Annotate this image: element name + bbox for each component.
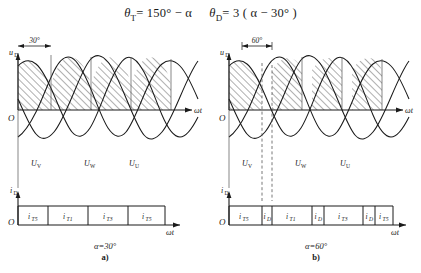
current-segment-label-b-5: i: [366, 212, 368, 221]
voltage-x-axis-arrow-a: [185, 108, 192, 113]
phase-sublabel-uv-b: V: [248, 163, 252, 169]
formula-theta-t-expression: = 150° − α: [136, 6, 192, 20]
current-segment-sublabel-a-1: T1: [67, 216, 73, 222]
voltage-y-axis-label-b: u: [220, 48, 224, 57]
current-segment-labels-b: i T5 i D i T1 i D i T3 i D i T5: [239, 212, 389, 222]
current-segment-labels-a: i T5 i T1 i T3 i T5: [28, 212, 152, 222]
phase-sublabel-uu-b: U: [346, 163, 350, 169]
current-segment-label-b-0: i: [239, 212, 241, 221]
voltage-y-axis-sublabel-a: D: [14, 52, 18, 58]
current-segment-label-a-0: i: [28, 212, 30, 221]
voltage-y-axis-sublabel-b: D: [225, 52, 229, 58]
angle-marker-b: 60°: [242, 36, 272, 50]
formula-theta-d: θD= 3 ( α − 30° ): [209, 6, 297, 23]
phase-sublabel-uw-a: W: [90, 163, 96, 169]
panel-a: 30° u D O ωt U V U W U U i D O ωt: [0, 33, 210, 273]
current-x-axis-arrow-a: [173, 223, 180, 228]
panel-b-alpha-caption: α=60°: [211, 241, 421, 251]
current-origin-label-b: O: [219, 217, 226, 227]
panel-b-label: b): [211, 252, 421, 262]
current-segment-label-a-2: i: [103, 212, 105, 221]
current-segment-label-a-3: i: [142, 212, 144, 221]
current-y-axis-sublabel-a: D: [14, 190, 18, 196]
current-segment-sublabel-a-0: T5: [32, 216, 38, 222]
formula-theta-t: θT= 150° − α: [124, 6, 192, 23]
angle-marker-label-b: 60°: [252, 36, 263, 45]
angle-marker-label-a: 30°: [28, 36, 40, 45]
current-x-axis-arrow-b: [399, 223, 406, 228]
current-segment-label-a-1: i: [63, 212, 65, 221]
current-y-axis-label-b: i: [221, 186, 223, 195]
voltage-origin-label-b: O: [219, 113, 226, 123]
panel-b: 60° u D O ωt U V U W U U i D O ωt: [211, 33, 421, 273]
current-segment-sublabel-b-6: T5: [383, 216, 389, 222]
current-origin-label-a: O: [8, 217, 15, 227]
current-segment-sublabel-b-4: T3: [342, 216, 348, 222]
phase-sublabel-uu-a: U: [135, 163, 139, 169]
current-segment-sublabel-b-5: D: [368, 216, 373, 222]
current-axes-a: [18, 193, 180, 225]
current-segment-label-b-4: i: [338, 212, 340, 221]
angle-marker-a: 30°: [18, 36, 51, 48]
current-segment-label-b-3: i: [315, 212, 317, 221]
current-x-axis-label-b: ωt: [391, 228, 400, 237]
panel-b-graphics: 60° u D O ωt U V U W U U i D O ωt: [211, 33, 421, 238]
panel-a-graphics: 30° u D O ωt U V U W U U i D O ωt: [0, 33, 210, 238]
voltage-x-axis-label-a: ωt: [194, 106, 203, 115]
phase-sublabel-uv-a: V: [37, 163, 41, 169]
voltage-x-axis-label-b: ωt: [405, 106, 414, 115]
current-segment-sublabel-b-0: T5: [243, 216, 249, 222]
current-segment-label-b-1: i: [264, 212, 266, 221]
current-segment-sublabel-b-3: D: [317, 216, 322, 222]
current-segment-sublabel-b-2: T1: [290, 216, 296, 222]
current-y-axis-sublabel-b: D: [225, 190, 229, 196]
figure-root: θT= 150° − α θD= 3 ( α − 30° ): [0, 0, 421, 273]
voltage-origin-label-a: O: [8, 113, 15, 123]
current-segment-label-b-6: i: [379, 212, 381, 221]
current-segment-sublabel-a-2: T3: [107, 216, 113, 222]
voltage-x-axis-arrow-b: [396, 108, 403, 113]
formula-theta-d-expression: = 3 ( α − 30° ): [222, 6, 296, 20]
current-x-axis-label-a: ωt: [166, 228, 175, 237]
formula-bar: θT= 150° − α θD= 3 ( α − 30° ): [0, 6, 421, 23]
phase-sublabel-uw-b: W: [301, 163, 307, 169]
commutation-guides-b: [262, 63, 272, 201]
current-y-axis-label-a: i: [10, 186, 12, 195]
panel-a-label: a): [0, 252, 210, 262]
current-segment-label-b-2: i: [286, 212, 288, 221]
current-segment-sublabel-a-3: T5: [146, 216, 152, 222]
voltage-y-axis-label-a: u: [9, 48, 13, 57]
panel-a-alpha-caption: α=30°: [0, 241, 210, 251]
current-segment-sublabel-b-1: D: [266, 216, 271, 222]
